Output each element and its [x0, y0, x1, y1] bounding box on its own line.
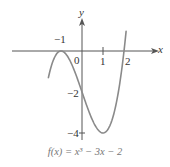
- function-caption: f(x) = x³ − 3x − 2: [0, 146, 170, 157]
- x-axis-label: x: [158, 44, 163, 55]
- x-tick-label-1: 1: [100, 56, 106, 67]
- x-tick-label-neg1: −1: [54, 34, 66, 45]
- y-axis-label: y: [79, 7, 84, 18]
- y-tick-label-neg4: −4: [67, 128, 79, 139]
- x-tick-label-0: 0: [74, 55, 80, 66]
- x-tick-label-2: 2: [125, 56, 131, 67]
- y-tick-label-neg2: −2: [67, 88, 79, 99]
- curve-f: [48, 31, 126, 133]
- function-graph: [0, 0, 170, 167]
